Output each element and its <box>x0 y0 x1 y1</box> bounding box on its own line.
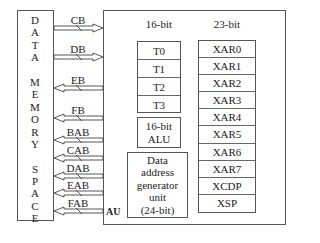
dagu-text-line: address <box>128 166 187 178</box>
alu-box: 16-bit ALU <box>137 117 181 148</box>
bus-eb: EB <box>54 74 103 92</box>
dagu-text-line: Data <box>128 154 187 166</box>
xar-register: XCDP <box>199 178 255 195</box>
xar-register: XAR2 <box>199 75 255 92</box>
xar-register: XAR6 <box>199 144 255 161</box>
bus-db: DB <box>54 43 103 61</box>
xar-register: XAR4 <box>199 109 255 126</box>
bus-label: BAB <box>67 126 90 138</box>
alu-line1: 16-bit <box>138 120 180 132</box>
dagu-text-line: unit <box>128 191 187 203</box>
xar-register: XAR1 <box>199 58 255 75</box>
t-register: T2 <box>138 78 180 96</box>
t-register: T3 <box>138 96 180 114</box>
xar-register: XAR3 <box>199 92 255 109</box>
data-address-generator-unit: Dataaddressgeneratorunit(24-bit) <box>127 152 188 218</box>
alu-line2: ALU <box>138 133 180 145</box>
bus-cb: CB <box>54 14 103 32</box>
t-register-block: T0T1T2T3 <box>137 41 181 113</box>
xar-register: XAR0 <box>199 41 255 58</box>
bus-fb: FB <box>54 104 103 122</box>
t-header: 16-bit <box>137 18 181 30</box>
bus-label: FB <box>71 104 84 116</box>
bus-fab: FAB <box>54 197 103 215</box>
xar-header: 23-bit <box>198 18 256 30</box>
bus-label: DAB <box>66 162 89 174</box>
bus-label: CB <box>71 14 86 26</box>
bus-bab: BAB <box>54 126 103 144</box>
dagu-text-line: generator <box>128 179 187 191</box>
xar-register: XSP <box>199 195 255 212</box>
xar-register: XAR7 <box>199 161 255 178</box>
xar-register: XAR5 <box>199 126 255 143</box>
xar-register-block: XAR0XAR1XAR2XAR3XAR4XAR5XAR6XAR7XCDPXSP <box>198 40 256 213</box>
dagu-text-line: (24-bit) <box>128 204 187 216</box>
bus-label: CAB <box>67 144 90 156</box>
bus-label: EB <box>71 74 85 86</box>
bus-cab: CAB <box>54 144 103 162</box>
bus-eab: EAB <box>54 179 103 197</box>
bus-label: EAB <box>67 179 89 191</box>
t-register: T1 <box>138 60 180 78</box>
bus-label: FAB <box>68 197 89 209</box>
bus-dab: DAB <box>54 162 103 180</box>
bus-label: DB <box>70 43 85 55</box>
t-register: T0 <box>138 42 180 60</box>
au-label: AU <box>106 206 120 217</box>
